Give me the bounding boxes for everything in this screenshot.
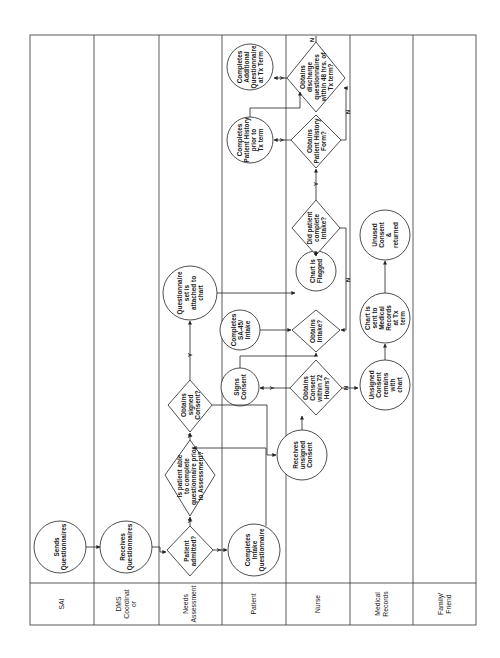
lane-label-sai: SAI — [58, 599, 66, 610]
edge-label-yes: Y — [279, 138, 285, 142]
lane-label-nurse: Nurse — [314, 595, 322, 613]
label-unused-returned: Unused Consent & returned — [371, 222, 399, 248]
label-receives-unsigned-consent: Receives unsigned Consent — [292, 441, 313, 469]
lane-label-patient: Patient — [250, 593, 258, 614]
edge-label-yes: Y — [187, 434, 193, 438]
label-chart-sent: Chart is sent to Medical Records at Tx t… — [364, 305, 406, 331]
edge-label-no: N — [309, 38, 315, 42]
label-receives-questionnaires: Receives Questionnaires — [119, 524, 133, 571]
edge-label-yes: Y — [187, 519, 193, 523]
label-discharge-questionnaires: Obtains discharge questionnaires within … — [299, 53, 334, 102]
edge-label-yes: Y — [313, 251, 319, 255]
label-completes-intake-questionnaire: Completes Intake Questionnaire — [244, 529, 265, 572]
lane-label-needs-assessment: Needs Assessment — [182, 585, 197, 622]
edge-label-yes: Y — [269, 386, 275, 390]
edge — [240, 353, 316, 368]
label-obtains-signed-consent: Obtains signed Consent? — [180, 390, 201, 419]
label-signs-consent: Signs Consent — [233, 374, 247, 400]
edge-label-no: N — [345, 278, 351, 282]
label-completes-additional: Completes Additional Questionnaire at Tx… — [236, 46, 264, 89]
edge — [250, 92, 300, 117]
label-did-complete-intake: Did patient complete Intake? — [306, 211, 327, 244]
label-completes-sa45: Completes SA-45/ Intake — [230, 314, 251, 347]
label-able-complete: Is patient able to complete questionnair… — [176, 447, 204, 505]
lane-label-family-friend: Family/ Friend — [437, 593, 452, 615]
edge-label-yes: Y — [216, 548, 222, 552]
label-consent-72h: Obtains Consent within 72 Hours? — [302, 374, 330, 401]
label-sends-questionnaires: Sends Questionnaires — [53, 524, 67, 571]
label-completes-history: Completes Patient History prior to Tx te… — [236, 117, 264, 162]
label-obtains-history: Obtains Patient History Form? — [306, 118, 327, 163]
lane-label-medical-records: Medical Records — [374, 591, 389, 616]
edge-label-yes: Y — [187, 353, 193, 357]
lane-label-dms-coordinator: DMS Coordinat or — [115, 589, 138, 618]
label-patient-admitted: Patient admitted? — [183, 536, 197, 567]
edge-label-no: N — [345, 110, 351, 114]
label-obtains-intake: Obtains Intake? — [309, 319, 323, 343]
edge-label-yes: Y — [279, 76, 285, 80]
label-unsigned-remains: Unsigned Consent remains with chart — [368, 370, 403, 399]
edge-label-no: N — [343, 386, 349, 390]
label-chart-flagged: Chart is Flagged — [309, 259, 323, 284]
edge-label-yes: Y — [313, 182, 319, 186]
label-questionnaire-attached: Questionnaire set is attached to chart — [176, 272, 204, 315]
